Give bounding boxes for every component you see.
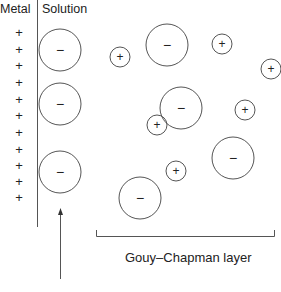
cation-ion-sign: + [267, 62, 274, 76]
metal-positive-charge: + [13, 143, 25, 156]
metal-positive-charge: + [13, 43, 25, 56]
anion-ion-sign: − [177, 100, 185, 116]
anion-ion-sign: − [56, 164, 64, 180]
anion-ion-sign: − [163, 37, 171, 53]
cation-ion-sign: + [218, 37, 225, 51]
anion-ion: − [39, 83, 81, 125]
metal-positive-charge: + [13, 175, 25, 188]
cation-group: ++++++ [110, 34, 281, 181]
metal-positive-charge: + [13, 159, 25, 172]
cation-ion-sign: + [116, 50, 123, 64]
metal-positive-charge: + [13, 26, 25, 39]
anion-ion: − [39, 151, 81, 193]
cation-ion: + [147, 115, 167, 135]
gouy-chapman-label: Gouy–Chapman layer [125, 250, 251, 265]
anion-ion: − [212, 137, 254, 179]
anion-ion: − [39, 29, 81, 71]
anion-ion-sign: − [56, 96, 64, 112]
metal-positive-charge: + [13, 191, 25, 204]
gouy-chapman-bracket [97, 230, 275, 237]
cation-ion: + [261, 59, 281, 79]
cation-ion-sign: + [241, 103, 248, 117]
anion-ion-sign: − [56, 42, 64, 58]
metal-positive-charge: + [13, 93, 25, 106]
cation-ion: + [110, 47, 130, 67]
metal-positive-charge: + [13, 59, 25, 72]
cation-ion: + [212, 34, 232, 54]
anion-group: −−−−−−− [39, 24, 254, 219]
cation-ion: + [235, 100, 255, 120]
double-layer-diagram: −−−−−−− ++++++ [0, 0, 281, 292]
anion-ion-sign: − [229, 150, 237, 166]
anion-ion: − [146, 24, 188, 66]
metal-positive-charge: + [13, 109, 25, 122]
metal-positive-charge: + [13, 76, 25, 89]
anion-ion-sign: − [136, 190, 144, 206]
cation-ion-sign: + [172, 164, 179, 178]
pointer-arrow-head [58, 208, 63, 215]
cation-ion-sign: + [153, 118, 160, 132]
anion-ion: − [119, 177, 161, 219]
metal-positive-charge: + [13, 126, 25, 139]
cation-ion: + [166, 161, 186, 181]
